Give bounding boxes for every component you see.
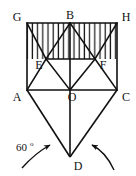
segment-F-O — [70, 59, 95, 90]
segment-E-O — [46, 59, 70, 90]
vertex-label-c: C — [122, 90, 130, 104]
angle-indicator-right — [92, 145, 114, 170]
vertex-label-g: G — [13, 10, 22, 24]
segment-C-D — [70, 90, 117, 157]
vertex-label-d: D — [74, 159, 83, 173]
angle-arc-right — [92, 145, 114, 170]
vertex-label-e: E — [35, 58, 42, 72]
vertex-label-b: B — [66, 8, 74, 22]
figure-canvas: G B H E F A O C D 60 o — [0, 0, 136, 176]
vertex-label-h: H — [122, 10, 131, 24]
angle-label-value: 60 — [16, 141, 28, 153]
vertex-label-f: F — [100, 58, 107, 72]
vertex-label-o: O — [68, 90, 77, 104]
vertex-label-a: A — [13, 90, 22, 104]
angle-label-degree-symbol: o — [30, 140, 34, 148]
geometry-diagram: G B H E F A O C D 60 o — [0, 0, 136, 176]
